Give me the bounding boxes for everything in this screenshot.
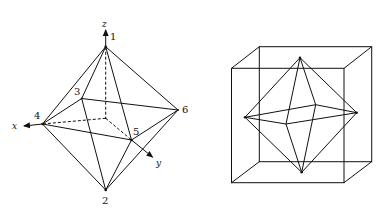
vertex-label-2: 2 bbox=[102, 195, 108, 206]
vertex-dot-2 bbox=[104, 189, 107, 192]
oct-edge-top-right bbox=[300, 58, 357, 113]
vertex-label-1: 1 bbox=[110, 31, 116, 42]
oct-edge-back-left bbox=[245, 105, 316, 118]
oct-vertex-left bbox=[244, 116, 246, 118]
edge-2-3 bbox=[82, 99, 106, 191]
oct-vertex-top bbox=[299, 57, 301, 59]
axis-label-x: x bbox=[12, 121, 17, 131]
cube-front-face bbox=[232, 68, 345, 182]
cube-edge-tl bbox=[232, 47, 260, 69]
x-axis-arrow bbox=[24, 124, 43, 126]
hidden-x-axis bbox=[43, 118, 106, 124]
edge-1-5 bbox=[106, 47, 132, 140]
vertex-dot-1 bbox=[104, 45, 107, 48]
oct-edge-bottom-right bbox=[302, 113, 357, 173]
y-axis-arrow bbox=[132, 140, 153, 157]
oct-edge-top-front bbox=[286, 58, 300, 124]
cube-edge-tr bbox=[344, 47, 372, 69]
vertex-dot-6 bbox=[177, 109, 179, 111]
oct-vertex-right bbox=[356, 112, 358, 114]
edge-1-3 bbox=[82, 47, 106, 99]
oct-edge-right-back bbox=[316, 105, 357, 113]
oct-vertex-bottom bbox=[301, 171, 303, 173]
cube-edge-bl bbox=[232, 162, 260, 183]
edge-1-6 bbox=[106, 47, 178, 110]
hidden-y-axis bbox=[106, 118, 132, 140]
cube-edge-br bbox=[344, 162, 372, 183]
oct-edge-front-right bbox=[286, 113, 357, 124]
oct-edge-top-left bbox=[245, 58, 300, 118]
vertex-label-3: 3 bbox=[74, 86, 80, 97]
vertex-dot-3 bbox=[81, 98, 83, 100]
center-dot bbox=[105, 118, 107, 120]
vertex-label-5: 5 bbox=[133, 126, 139, 137]
vertex-dot-4 bbox=[41, 123, 44, 126]
edge-4-3 bbox=[43, 99, 82, 125]
octahedron-in-cube-figure bbox=[232, 47, 372, 183]
axis-label-y: y bbox=[155, 158, 162, 168]
axis-label-z: z bbox=[101, 19, 107, 29]
vertex-label-4: 4 bbox=[34, 110, 40, 121]
diagram-canvas: 1 2 3 4 5 6 z x y bbox=[0, 0, 383, 210]
vertex-dot-5 bbox=[130, 139, 133, 142]
left-figure-labels: 1 2 3 4 5 6 z x y bbox=[12, 19, 188, 206]
edge-2-6 bbox=[106, 110, 178, 190]
vertex-label-6: 6 bbox=[182, 104, 188, 115]
edge-3-6 bbox=[82, 99, 178, 111]
